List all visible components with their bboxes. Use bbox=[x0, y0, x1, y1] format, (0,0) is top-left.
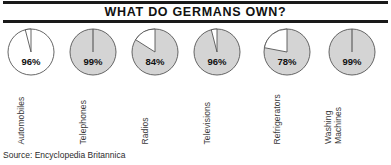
pie-chart-televisions: 96% bbox=[191, 26, 243, 78]
category-label-telephones: Telephones bbox=[67, 82, 119, 144]
category-label-line: Machines bbox=[333, 107, 343, 144]
source-note: Source: Encyclopedia Britannica bbox=[3, 150, 125, 160]
category-label-line: Radios bbox=[141, 117, 151, 144]
category-label-text: WashingMachines bbox=[324, 107, 343, 144]
category-label-line: Automobiles bbox=[17, 96, 27, 144]
category-label-washing-machines: WashingMachines bbox=[326, 82, 378, 144]
pie-chart-washing-machines: 99% bbox=[326, 26, 378, 78]
pie-chart-figure: WHAT DO GERMANS OWN? 96%99%84%96%78%99% … bbox=[0, 0, 391, 165]
category-label-text: Refrigerators bbox=[273, 94, 283, 144]
category-label-text: Telephones bbox=[79, 100, 89, 144]
chart-title: WHAT DO GERMANS OWN? bbox=[0, 4, 391, 20]
category-label-line: Washing bbox=[324, 107, 334, 144]
pie-chart-automobiles: 96% bbox=[5, 26, 57, 78]
category-label-televisions: Televisions bbox=[191, 82, 243, 144]
pie-slice-remainder bbox=[264, 29, 287, 52]
pie-row: 96%99%84%96%78%99% bbox=[0, 26, 391, 80]
pie-chart-radios: 84% bbox=[129, 26, 181, 78]
title-rule-bottom bbox=[3, 20, 388, 23]
pie-chart-telephones: 99% bbox=[67, 26, 119, 78]
category-label-row: AutomobilesTelephonesRadiosTelevisionsRe… bbox=[0, 82, 391, 144]
category-label-line: Telephones bbox=[79, 100, 89, 144]
category-label-line: Televisions bbox=[203, 101, 213, 144]
category-label-text: Automobiles bbox=[17, 96, 27, 144]
category-label-line: Refrigerators bbox=[273, 94, 283, 144]
category-label-text: Radios bbox=[141, 117, 151, 144]
category-label-refrigerators: Refrigerators bbox=[261, 82, 313, 144]
category-label-radios: Radios bbox=[129, 82, 181, 144]
pie-chart-refrigerators: 78% bbox=[261, 26, 313, 78]
category-label-text: Televisions bbox=[203, 101, 213, 144]
category-label-automobiles: Automobiles bbox=[5, 82, 57, 144]
